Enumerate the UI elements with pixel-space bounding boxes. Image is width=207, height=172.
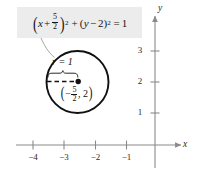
fraction-numerator: 5 bbox=[52, 13, 58, 21]
equation-plus-sign-two: + bbox=[72, 17, 78, 29]
center-minus-sign: − bbox=[65, 88, 71, 99]
y-tick-label-2: 2 bbox=[134, 76, 146, 86]
center-y-value: 2 bbox=[83, 88, 88, 99]
equation-right-hand-side: 1 bbox=[122, 17, 128, 29]
center-coordinate-label: (−52, 2) bbox=[60, 86, 93, 103]
y-tick-label-1: 1 bbox=[134, 107, 146, 117]
equation-text: (x+52)2+(y−2)2=1 bbox=[17, 7, 142, 38]
radius-brace bbox=[48, 71, 78, 78]
x-tick-label-minus-4: −4 bbox=[23, 152, 43, 162]
x-tick-label-minus-1: −1 bbox=[117, 152, 137, 162]
x-tick-label-minus-2: −2 bbox=[86, 152, 106, 162]
center-fraction-denominator: 2 bbox=[71, 94, 77, 103]
x-axis-label: x bbox=[183, 139, 187, 149]
callout-leader-line bbox=[41, 38, 55, 58]
center-fraction-five-halves: 52 bbox=[71, 86, 77, 103]
radius-label: r = 1 bbox=[52, 56, 73, 67]
fraction-denominator: 2 bbox=[52, 22, 58, 31]
equation-fraction-five-halves: 52 bbox=[52, 13, 58, 30]
equation-exponent-one: 2 bbox=[65, 19, 69, 27]
radius-label-text: r = 1 bbox=[52, 56, 73, 67]
graph-figure: (x+52)2+(y−2)2=1 r = 1 (−52, 2) −4 −3 −2… bbox=[0, 0, 207, 172]
equation-variable-y: y bbox=[84, 17, 89, 29]
y-tick-label-3: 3 bbox=[134, 45, 146, 55]
center-fraction-numerator: 5 bbox=[71, 86, 77, 94]
equation-plus-sign: + bbox=[44, 17, 50, 29]
equation-variable-x: x bbox=[38, 17, 43, 29]
x-tick-label-minus-3: −3 bbox=[54, 152, 74, 162]
equation-minus-sign: − bbox=[90, 17, 96, 29]
center-point-dot bbox=[76, 79, 81, 84]
equation-exponent-two: 2 bbox=[107, 19, 111, 27]
y-axis-label: y bbox=[158, 3, 162, 13]
equation-equals-sign: = bbox=[113, 17, 119, 29]
